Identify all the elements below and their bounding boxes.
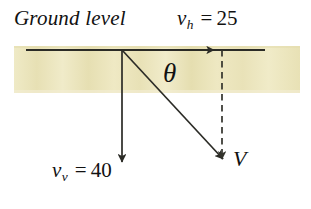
launch-angle-theta-label: θ (163, 60, 176, 87)
projectile-velocity-diagram: Ground level vh=25 vv=40 θ V (0, 0, 311, 209)
vertical-velocity-equals: = (68, 158, 91, 182)
ground-level-label: Ground level (14, 8, 126, 29)
ground-band-top-edge (14, 46, 300, 48)
horizontal-velocity-symbol: v (177, 6, 186, 30)
vector-diagram-canvas (0, 0, 311, 209)
resultant-velocity-label: V (233, 148, 246, 170)
vertical-velocity-symbol: v (52, 158, 61, 182)
horizontal-velocity-label: vh=25 (177, 8, 237, 29)
vertical-velocity-subscript: v (61, 169, 67, 184)
horizontal-velocity-subscript: h (186, 17, 193, 32)
horizontal-velocity-equals: = (194, 6, 217, 30)
ground-band-bottom-edge (14, 90, 300, 93)
ground-band (14, 46, 300, 93)
vertical-velocity-value: 40 (91, 158, 112, 182)
vertical-velocity-label: vv=40 (52, 160, 112, 181)
horizontal-velocity-value: 25 (216, 6, 237, 30)
